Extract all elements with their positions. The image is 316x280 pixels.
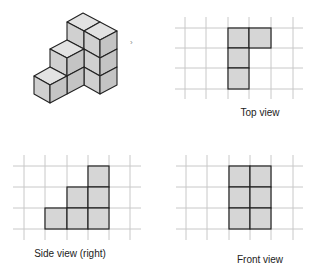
front-view-cells xyxy=(229,166,271,229)
top-view-label: Top view xyxy=(210,107,310,118)
front-view-label: Front view xyxy=(210,254,310,265)
side-view-label: Side view (right) xyxy=(10,248,130,259)
arrow-marker: › xyxy=(130,38,133,47)
top-view-cells xyxy=(228,28,271,89)
isometric-cube-stack xyxy=(34,13,117,103)
figure-canvas: › xyxy=(0,0,316,280)
side-view-cells xyxy=(45,166,109,229)
